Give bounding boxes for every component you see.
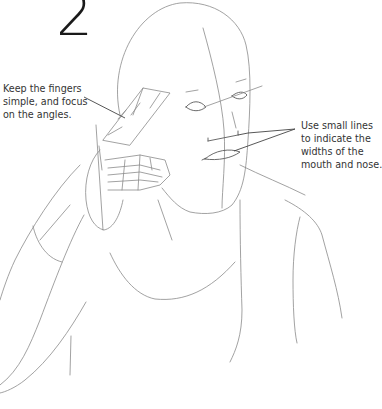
annotation-line: simple, and focus [3, 95, 98, 108]
annotation-line: on the angles. [3, 108, 98, 121]
eye-line [204, 86, 262, 107]
annotation-line: to indicate the [301, 132, 381, 145]
forearm-inner [0, 215, 84, 385]
sleeve-mark [33, 205, 70, 262]
right-eyebrow [236, 79, 246, 82]
annotation-line: Use small lines [301, 119, 381, 132]
annotation-line: widths of the [301, 145, 381, 158]
forearm-outer [0, 165, 80, 300]
collar-curve [110, 253, 235, 299]
finger-joints [108, 103, 140, 135]
neck-right [240, 165, 305, 195]
thumb [96, 125, 103, 230]
forearm-bottom [0, 302, 86, 393]
leader-line-mouth [234, 129, 295, 151]
face-centerline [203, 28, 225, 208]
step-number: 2 [56, 0, 93, 44]
elbow-mark [70, 336, 71, 375]
torso-left-center [230, 200, 242, 362]
left-eye [186, 102, 206, 111]
back-fingers [105, 155, 170, 190]
annotation-line: mouth and nose. [301, 158, 381, 171]
right-eye [232, 92, 247, 99]
left-eyebrow [186, 90, 198, 92]
cheek-line [232, 112, 236, 128]
index-finger [103, 88, 170, 145]
annotation-line: Keep the fingers [3, 82, 98, 95]
annotation-mouth-nose: Use small lines to indicate the widths o… [301, 119, 381, 171]
right-arm-inner [293, 217, 300, 343]
annotation-fingers: Keep the fingers simple, and focus on th… [3, 82, 98, 121]
head-outline [117, 3, 250, 214]
nose-width-marks [208, 131, 238, 141]
neck-center [158, 200, 172, 240]
mouth [202, 150, 240, 160]
